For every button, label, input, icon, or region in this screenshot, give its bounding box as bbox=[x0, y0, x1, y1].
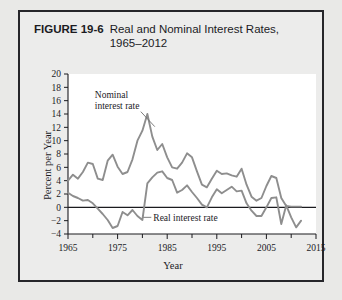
x-tick-label: 1995 bbox=[207, 243, 226, 253]
x-tick-label: 1985 bbox=[158, 243, 177, 253]
chart-plot-area: Percent per Year Year −4−202468101214161… bbox=[20, 64, 326, 282]
x-tick-label: 1975 bbox=[108, 243, 127, 253]
y-tick-label: 16 bbox=[52, 96, 62, 106]
x-tick-label: 2015 bbox=[307, 243, 326, 253]
line-chart: −4−2024681012141618201965197519851995200… bbox=[20, 64, 326, 282]
figure-title-line2: 1965–2012 bbox=[110, 37, 168, 49]
y-tick-label: 2 bbox=[56, 189, 61, 199]
y-tick-label: −4 bbox=[51, 229, 61, 239]
y-tick-label: 8 bbox=[56, 149, 61, 159]
figure-panel: FIGURE 19-6 Real and Nominal Interest Ra… bbox=[18, 10, 324, 282]
figure-title-block: FIGURE 19-6 Real and Nominal Interest Ra… bbox=[34, 22, 314, 50]
y-tick-label: 0 bbox=[56, 203, 61, 213]
annotation-nominal-line1: Nominal bbox=[95, 90, 129, 100]
y-tick-label: 12 bbox=[52, 123, 62, 133]
y-tick-label: 4 bbox=[56, 176, 61, 186]
y-tick-label: 10 bbox=[52, 136, 62, 146]
y-tick-label: 6 bbox=[56, 163, 61, 173]
y-tick-label: 14 bbox=[52, 109, 62, 119]
x-tick-label: 1965 bbox=[59, 243, 78, 253]
annotation-real: Real interest rate bbox=[153, 213, 217, 223]
figure-number: FIGURE 19-6 bbox=[34, 22, 104, 36]
x-tick-label: 2005 bbox=[257, 243, 276, 253]
y-tick-label: −2 bbox=[51, 216, 61, 226]
figure-title-line1: Real and Nominal Interest Rates, bbox=[110, 23, 279, 35]
y-tick-label: 18 bbox=[52, 83, 62, 93]
y-tick-label: 20 bbox=[52, 69, 62, 79]
annotation-nominal-line2: interest rate bbox=[95, 101, 140, 111]
figure-title: Real and Nominal Interest Rates, 1965–20… bbox=[110, 22, 279, 50]
